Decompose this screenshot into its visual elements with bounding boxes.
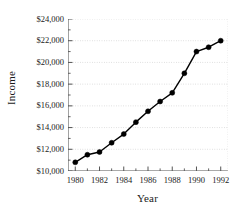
income-vs-year-line-chart: Income Year $10,000$12,000$14,000$16,000… — [0, 0, 240, 212]
y-tick-label: $20,000 — [8, 58, 64, 67]
x-tick-label: 1992 — [201, 176, 240, 185]
y-axis-ticks — [68, 19, 73, 171]
y-tick-label: $24,000 — [8, 15, 64, 24]
income-series-markers — [73, 38, 223, 165]
plot-frame — [68, 19, 228, 171]
x-axis-ticks — [75, 167, 220, 172]
y-tick-label: $14,000 — [8, 123, 64, 132]
plot-area — [68, 19, 228, 171]
y-tick-label: $18,000 — [8, 80, 64, 89]
x-axis-title: Year — [60, 192, 235, 204]
y-tick-label: $12,000 — [8, 145, 64, 154]
y-tick-label: $16,000 — [8, 101, 64, 110]
y-tick-label: $22,000 — [8, 36, 64, 45]
plot-svg — [68, 19, 228, 171]
income-series-line — [75, 41, 220, 163]
y-tick-label: $10,000 — [8, 167, 64, 176]
gridlines — [68, 19, 228, 149]
